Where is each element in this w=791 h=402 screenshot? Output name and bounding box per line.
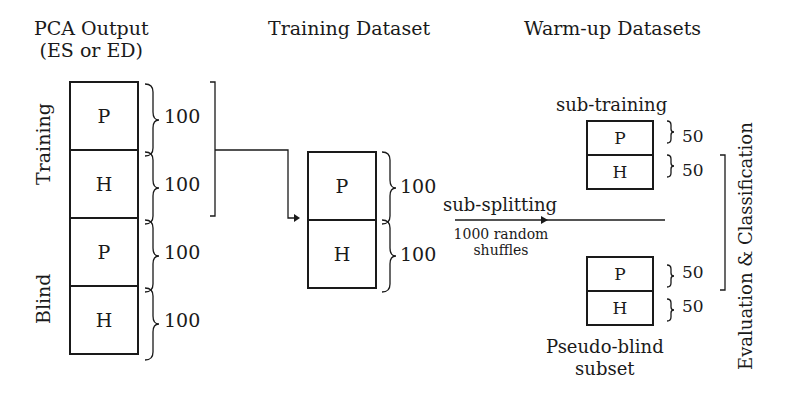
arrow-head-icon	[541, 216, 548, 224]
brace-icon	[145, 220, 159, 292]
brace-icon	[667, 265, 674, 287]
sub-training-block-h: H	[586, 154, 654, 190]
pca-count: 100	[164, 105, 200, 127]
pca-block-h-training: H	[69, 149, 139, 219]
evaluation-classification-label: Evaluation & Classification	[735, 122, 756, 370]
sub-training-title: sub-training	[556, 94, 667, 115]
pca-block-p-blind: P	[69, 217, 139, 287]
brace-icon	[145, 152, 159, 224]
arrow-head-icon	[294, 214, 300, 222]
brace-icon	[145, 288, 159, 360]
pseudo-blind-count: 50	[682, 262, 704, 282]
pca-block-p-training: P	[69, 81, 139, 151]
pseudo-blind-block-h: H	[586, 290, 654, 326]
pca-block-h-blind: H	[69, 285, 139, 355]
pseudo-blind-block-p: P	[586, 256, 654, 292]
brace-icon	[145, 84, 159, 156]
brace-icon	[667, 299, 674, 321]
training-block-h: H	[307, 219, 377, 289]
pseudo-blind-title-line2: subset	[546, 358, 664, 380]
pca-count: 100	[164, 309, 200, 331]
brace-icon	[382, 220, 396, 292]
sub-training-block-p: P	[586, 120, 654, 156]
sub-splitting-label: sub-splitting	[443, 194, 557, 215]
pseudo-blind-title: Pseudo-blind subset	[546, 336, 664, 380]
sub-training-count: 50	[682, 126, 704, 146]
training-count: 100	[400, 243, 436, 265]
training-block-p: P	[307, 151, 377, 221]
pseudo-blind-title-line1: Pseudo-blind	[546, 336, 664, 358]
brace-icon	[667, 155, 674, 177]
group-label-training: Training	[32, 103, 54, 185]
group-label-blind: Blind	[32, 273, 54, 324]
pca-count: 100	[164, 173, 200, 195]
sub-training-count: 50	[682, 160, 704, 180]
training-count: 100	[400, 175, 436, 197]
pseudo-blind-count: 50	[682, 296, 704, 316]
shuffles-label-line2: shuffles	[453, 242, 549, 258]
pca-count: 100	[164, 241, 200, 263]
shuffles-label: 1000 random shuffles	[453, 226, 549, 258]
brace-icon	[382, 152, 396, 224]
shuffles-label-line1: 1000 random	[453, 226, 549, 242]
brace-icon	[667, 121, 674, 143]
